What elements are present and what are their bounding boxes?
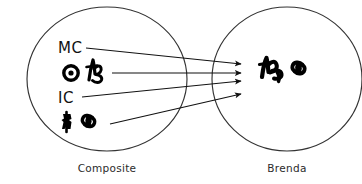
target-set-outline xyxy=(212,7,362,151)
arrow-group xyxy=(82,48,241,124)
handwriting-glyph-icon-e xyxy=(292,62,304,73)
handwriting-glyph-icon-c xyxy=(82,115,94,126)
handwriting-glyph-icon-a xyxy=(87,60,102,83)
source-glyph-pair-2 xyxy=(62,112,95,132)
source-glyph-pair-1 xyxy=(64,60,102,83)
source-set-caption: Composite xyxy=(78,162,137,174)
source-set-outline xyxy=(27,7,187,151)
diagram-canvas: MC IC xyxy=(0,0,362,184)
source-set-group xyxy=(27,7,187,151)
source-item-label-mc: MC xyxy=(58,39,82,57)
handwriting-glyph-icon-d xyxy=(260,58,282,82)
mapping-diagram-svg: MC IC xyxy=(0,0,362,184)
ring-dot-glyph-icon xyxy=(64,66,78,80)
target-set-caption: Brenda xyxy=(267,162,306,174)
arrow-sample-2 xyxy=(110,94,241,124)
handwriting-glyph-icon-b xyxy=(62,112,72,132)
target-set-group xyxy=(212,7,362,151)
arrow-ic xyxy=(82,81,241,97)
target-glyph-pair xyxy=(260,58,305,82)
source-item-label-ic: IC xyxy=(58,89,74,107)
